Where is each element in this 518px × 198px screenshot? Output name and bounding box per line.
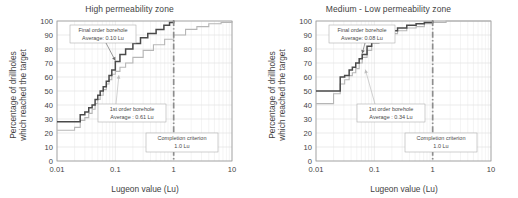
y-tick-label-right: 60 bbox=[304, 73, 312, 82]
y-tick-label-left: 100 bbox=[40, 17, 53, 26]
y-tick-label-right: 20 bbox=[304, 129, 312, 138]
y-axis-title-right-line1: Percentage of drillholes bbox=[267, 51, 277, 139]
chart-svg-right: 01020304050607080901000.010.1110 Final o… bbox=[259, 0, 518, 198]
y-tick-label-right: 40 bbox=[304, 101, 312, 110]
y-tick-label-left: 70 bbox=[45, 59, 53, 68]
leader-final-order-arrow bbox=[361, 50, 365, 54]
x-axis-title-left: Lugeon value (Lu) bbox=[111, 184, 179, 194]
y-tick-label-left: 90 bbox=[45, 31, 53, 40]
y-tick-label-left: 30 bbox=[45, 115, 53, 124]
callout-final-order-line2: Average: 0.10 Lu bbox=[82, 35, 124, 41]
callout-completion-criterion-line1: Completion criterion bbox=[158, 135, 207, 141]
callout-first-order-line1: 1st order borehole bbox=[110, 106, 155, 112]
chart-svg-left: 01020304050607080901000.010.1110 Final o… bbox=[0, 0, 259, 198]
callout-completion-criterion-line2: 1.0 Lu bbox=[174, 143, 189, 149]
y-tick-label-left: 40 bbox=[45, 101, 53, 110]
permeability-figure: High permeability zone 01020304050607080… bbox=[0, 0, 518, 198]
y-axis-title-left-line2: which reached the target bbox=[18, 48, 28, 141]
y-tick-label-left: 50 bbox=[45, 87, 53, 96]
y-tick-label-right: 30 bbox=[304, 115, 312, 124]
chart-panel-high-permeability: High permeability zone 01020304050607080… bbox=[0, 0, 259, 198]
x-axis-title-right: Lugeon value (Lu) bbox=[370, 184, 438, 194]
leader-first-order bbox=[365, 70, 375, 104]
y-tick-label-right: 70 bbox=[304, 59, 312, 68]
callout-final-order-line1: Final order borehole bbox=[78, 27, 127, 33]
leader-first-order bbox=[116, 75, 119, 104]
y-tick-label-right: 80 bbox=[304, 45, 312, 54]
y-tick-label-right: 10 bbox=[304, 143, 312, 152]
y-tick-label-right: 90 bbox=[304, 31, 312, 40]
x-tick-label-left: 10 bbox=[228, 165, 236, 174]
callout-final-order-line2: Average: 0.08 Lu bbox=[341, 35, 383, 41]
callout-completion-criterion-line2: 1.0 Lu bbox=[433, 143, 448, 149]
y-axis-title-left-line1: Percentage of drillholes bbox=[8, 51, 18, 139]
leader-first-order-arrow bbox=[364, 70, 368, 74]
x-tick-label-right: 0.1 bbox=[369, 165, 380, 174]
callout-first-order-line2: Average : 0.34 Lu bbox=[369, 114, 412, 120]
callout-first-order-line1: 1st order borehole bbox=[369, 106, 414, 112]
y-tick-label-left: 60 bbox=[45, 73, 53, 82]
chart-panel-medium-low-permeability: Medium - Low permeability zone 010203040… bbox=[259, 0, 518, 198]
y-axis-title-right-line2: which reached the target bbox=[277, 48, 287, 141]
x-tick-label-left: 0.1 bbox=[110, 165, 121, 174]
x-tick-label-right: 0.01 bbox=[309, 165, 324, 174]
callout-completion-criterion-line1: Completion criterion bbox=[417, 135, 466, 141]
callout-final-order-line1: Final order borehole bbox=[337, 27, 386, 33]
callout-first-order-line2: Average : 0.61 Lu bbox=[110, 114, 153, 120]
x-tick-label-right: 10 bbox=[487, 165, 495, 174]
y-tick-label-right: 100 bbox=[299, 17, 312, 26]
x-tick-label-left: 1 bbox=[172, 165, 176, 174]
x-tick-label-right: 1 bbox=[431, 165, 435, 174]
x-tick-label-left: 0.01 bbox=[50, 165, 65, 174]
y-tick-label-right: 50 bbox=[304, 87, 312, 96]
y-tick-label-left: 10 bbox=[45, 143, 53, 152]
y-tick-label-left: 20 bbox=[45, 129, 53, 138]
y-tick-label-left: 80 bbox=[45, 45, 53, 54]
